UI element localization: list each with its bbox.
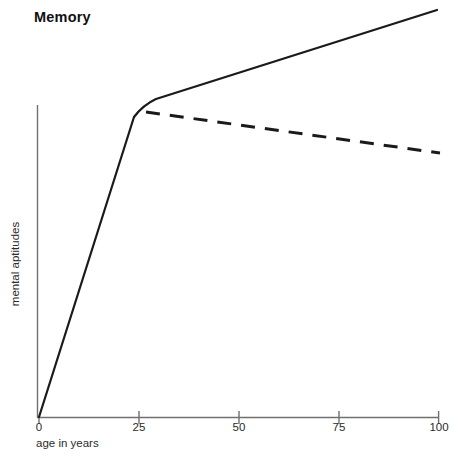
x-tick-label-25: 25 (129, 421, 149, 433)
x-axis-label: age in years (36, 437, 99, 449)
x-tick-label-50: 50 (229, 421, 249, 433)
series-line-gradual-decline (146, 112, 440, 153)
series-line-continued-growth (39, 10, 437, 417)
memory-chart: Memory 0 25 50 75 100 age in years menta… (0, 0, 461, 462)
x-tick-label-75: 75 (329, 421, 349, 433)
x-tick-label-100: 100 (425, 421, 453, 433)
chart-plot-area (0, 0, 461, 462)
x-tick-label-0: 0 (29, 421, 49, 433)
y-axis-label: mental aptitudes (9, 204, 21, 324)
